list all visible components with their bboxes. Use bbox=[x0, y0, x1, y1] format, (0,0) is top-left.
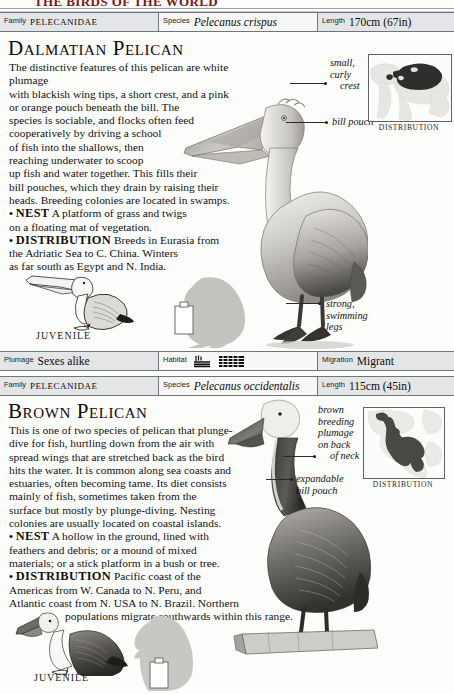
entry1-header-bar: Family PELECANIDAE Species Pelecanus cri… bbox=[0, 12, 454, 32]
entry1-habitat-cell: Habitat bbox=[158, 352, 317, 370]
entry2-juvenile-illustration bbox=[14, 612, 134, 676]
entry1-migration-cell: Migration Migrant bbox=[317, 352, 454, 370]
length-label: Length bbox=[322, 380, 345, 389]
family-label: Family bbox=[4, 16, 26, 25]
top-rule bbox=[0, 8, 454, 9]
species-value: Pelecanus occidentalis bbox=[194, 380, 300, 392]
plumage-label: Plumage bbox=[4, 355, 34, 364]
entry2-billpouch-leader bbox=[266, 479, 290, 480]
entry1-plumage-cell: Plumage Sexes alike bbox=[0, 352, 158, 370]
entry1-juvenile-caption: JUVENILE bbox=[36, 330, 91, 341]
entry2-size-silhouette bbox=[120, 612, 200, 692]
entry1-distribution-map bbox=[368, 54, 452, 122]
entry1-family-cell: Family PELECANIDAE bbox=[0, 13, 158, 31]
entry1-dist-keyword: DISTRIBUTION bbox=[16, 233, 111, 247]
entry2-anno-breeding-plumage: brown breeding plumage on back of neck bbox=[318, 404, 359, 462]
entry2-nest-keyword: NEST bbox=[16, 529, 50, 543]
species-value: Pelecanus crispus bbox=[194, 16, 277, 28]
field-guide-page: THE BIRDS OF THE WORLD Family PELECANIDA… bbox=[0, 0, 454, 694]
habitat-label: Habitat bbox=[163, 355, 187, 364]
entry1-title: Dalmatian Pelican bbox=[8, 36, 184, 61]
entry1-billpouch-dot bbox=[325, 121, 328, 124]
entry1-species-cell: Species Pelecanus crispus bbox=[158, 13, 317, 31]
entry1-size-silhouette bbox=[172, 276, 250, 348]
entry1-legs-leader bbox=[286, 303, 318, 304]
entry2-anno-billpouch: expandable bill pouch bbox=[296, 473, 343, 496]
entry2-billpouch-dot bbox=[290, 478, 293, 481]
entry1-nest-keyword: NEST bbox=[16, 206, 50, 220]
entry1-legs-dot bbox=[318, 302, 321, 305]
entry1-anno-legs: strong, swimming legs bbox=[326, 298, 368, 333]
entry1-billpouch-leader bbox=[286, 122, 325, 123]
open-water-icon bbox=[219, 355, 245, 368]
plumage-value: Sexes alike bbox=[38, 355, 90, 367]
species-label: Species bbox=[163, 16, 190, 25]
family-value: PELECANIDAE bbox=[30, 381, 98, 391]
entry1-crest-leader bbox=[290, 83, 324, 84]
family-value: PELECANIDAE bbox=[30, 17, 98, 27]
migration-label: Migration bbox=[322, 355, 353, 364]
entry1-anno-crest: small, curly crest bbox=[330, 57, 360, 92]
entry2-title: Brown Pelican bbox=[8, 399, 148, 424]
entry1-length-cell: Length 170cm (67in) bbox=[317, 13, 454, 31]
reeds-water-icon bbox=[194, 355, 211, 368]
entry1-crest-dot bbox=[324, 82, 327, 85]
entry2-species-cell: Species Pelecanus occidentalis bbox=[158, 377, 317, 395]
entry1-footer-bar: Plumage Sexes alike Habitat Migration Mi… bbox=[0, 351, 454, 371]
length-value: 115cm (45in) bbox=[349, 380, 411, 392]
entry1-juvenile-illustration bbox=[16, 274, 136, 332]
species-label: Species bbox=[163, 380, 190, 389]
migration-value: Migrant bbox=[357, 355, 394, 367]
entry1-map-caption: DISTRIBUTION bbox=[368, 123, 450, 132]
entry2-plumage-leader bbox=[283, 456, 313, 457]
entry2-plumage-dot bbox=[313, 455, 316, 458]
entry2-family-cell: Family PELECANIDAE bbox=[0, 377, 158, 395]
entry2-juvenile-caption: JUVENILE bbox=[34, 672, 89, 683]
entry2-length-cell: Length 115cm (45in) bbox=[317, 377, 454, 395]
entry2-header-bar: Family PELECANIDAE Species Pelecanus occ… bbox=[0, 376, 454, 396]
entry2-distribution-map bbox=[363, 407, 445, 479]
family-label: Family bbox=[4, 380, 26, 389]
length-value: 170cm (67in) bbox=[349, 16, 411, 28]
entry2-dist-keyword: DISTRIBUTION bbox=[16, 569, 111, 583]
running-head-partial: THE BIRDS OF THE WORLD bbox=[34, 0, 254, 6]
entry2-map-caption: DISTRIBUTION bbox=[363, 480, 443, 489]
length-label: Length bbox=[322, 16, 345, 25]
